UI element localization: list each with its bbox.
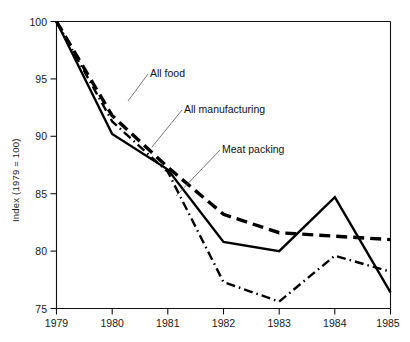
x-tick-label-1982: 1982 [212, 317, 236, 329]
x-tick-label-1985: 1985 [376, 317, 400, 329]
y-tick-label-85: 85 [35, 188, 47, 200]
x-tick-label-1980: 1980 [101, 317, 125, 329]
x-tick-label-1979: 1979 [45, 317, 69, 329]
chart-container: 100 95 90 85 80 75 1979 1980 1981 1982 1… [0, 0, 410, 342]
series-label-all-manufacturing: All manufacturing [184, 103, 265, 115]
y-axis-tick-labels: 100 95 90 85 80 75 [29, 16, 47, 315]
x-tick-label-1983: 1983 [268, 317, 292, 329]
y-tick-label-80: 80 [35, 245, 47, 257]
leader-line-all-manufacturing [152, 110, 182, 147]
series-line-all-manufacturing [57, 22, 391, 293]
y-tick-label-90: 90 [35, 130, 47, 142]
y-tick-label-100: 100 [29, 16, 47, 28]
line-chart: 100 95 90 85 80 75 1979 1980 1981 1982 1… [0, 0, 410, 342]
y-tick-label-95: 95 [35, 73, 47, 85]
series-label-all-food: All food [150, 67, 185, 79]
x-tick-label-1984: 1984 [323, 317, 347, 329]
y-tick-label-75: 75 [35, 303, 47, 315]
annotation-labels: All food All manufacturing Meat packing [150, 67, 285, 155]
x-axis-tick-labels: 1979 1980 1981 1982 1983 1984 1985 [45, 317, 400, 329]
leader-line-meat-packing [176, 150, 220, 196]
y-axis-title: Index (1979 = 100) [10, 138, 21, 222]
series-line-meat-packing [57, 22, 391, 302]
series-label-meat-packing: Meat packing [222, 143, 285, 155]
x-tick-label-1981: 1981 [156, 317, 180, 329]
x-axis-ticks [57, 309, 391, 315]
leader-line-all-food [128, 74, 148, 101]
y-axis-ticks [51, 22, 57, 309]
